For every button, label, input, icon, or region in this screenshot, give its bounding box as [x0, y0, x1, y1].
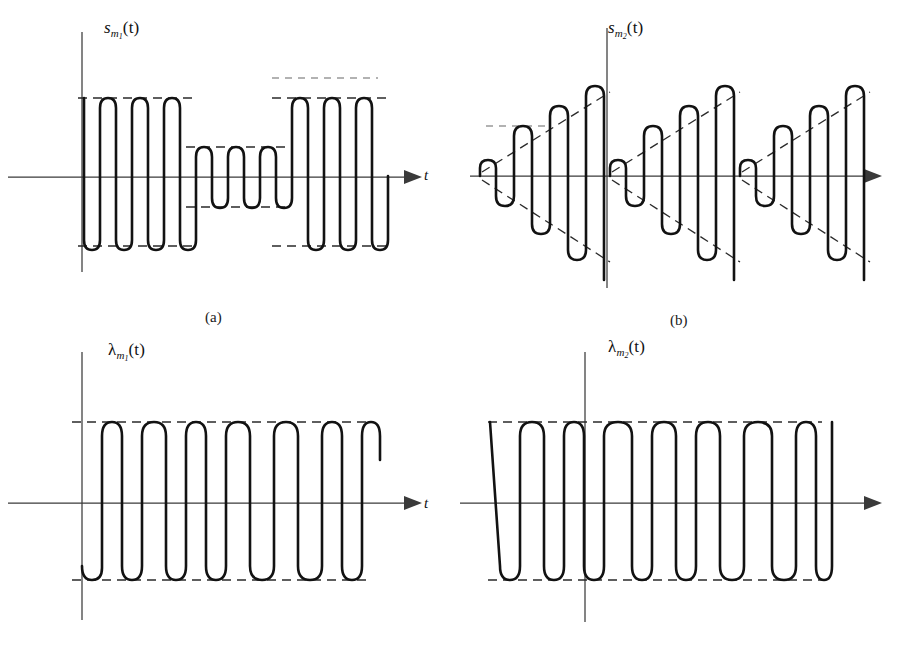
panel-a-waveform	[84, 98, 388, 250]
panel-b-waveform-ramp-2	[610, 86, 734, 280]
panel-b-envelope	[482, 92, 870, 262]
label-sm1-arg: (t)	[123, 18, 140, 37]
panel-b-waveform-ramp-1	[480, 86, 604, 280]
panel-b-chart	[450, 0, 900, 300]
envelope-down-2	[612, 180, 740, 262]
panel-b-waveform-ramp-3	[740, 86, 864, 280]
envelope-down-1	[482, 180, 610, 262]
panel-a-chart	[0, 0, 460, 300]
panel-d-y-axis-label: λm2(t)	[608, 337, 645, 360]
panel-d-chart	[450, 330, 900, 649]
label-sm2-main: s	[608, 18, 615, 37]
label-lm1-arg: (t)	[128, 340, 145, 359]
label-sm1-main: s	[104, 18, 111, 37]
envelope-up-3	[742, 92, 870, 172]
panel-c-chart	[0, 330, 460, 649]
panel-b-y-axis-label: sm2(t)	[608, 18, 643, 41]
label-lm2-arg: (t)	[628, 337, 645, 356]
x-axis-arrowhead-icon	[404, 170, 422, 184]
panel-b-svg	[450, 0, 900, 300]
caption-b: (b)	[670, 312, 688, 329]
label-sm2-arg: (t)	[627, 18, 644, 37]
envelope-up-2	[612, 92, 740, 172]
caption-a: (a)	[205, 309, 222, 326]
x-axis-arrowhead-icon	[864, 496, 882, 510]
panel-d-axes	[460, 352, 882, 622]
panel-c-envelope	[72, 422, 370, 580]
panel-a-svg	[0, 0, 460, 300]
envelope-down-3	[742, 180, 870, 262]
panel-c-y-axis-label: λm1(t)	[108, 340, 145, 363]
panel-a-envelope	[78, 78, 392, 246]
x-axis-arrowhead-icon	[864, 169, 882, 183]
panel-d-svg	[450, 330, 900, 649]
panel-d-waveform	[490, 422, 832, 580]
label-sm1-sub: m	[111, 27, 119, 39]
panel-c-waveform	[82, 422, 380, 580]
panel-a-y-axis-label: sm1(t)	[104, 18, 139, 41]
envelope-up-1	[482, 92, 610, 172]
panel-c-x-axis-label: t	[424, 495, 428, 512]
panel-c-svg	[0, 330, 460, 649]
x-axis-arrowhead-icon	[404, 496, 422, 510]
panel-a-axes	[8, 32, 422, 272]
figure-container: sm1(t) t	[0, 0, 900, 649]
label-sm2-sub: m	[615, 27, 623, 39]
panel-a-x-axis-label: t	[424, 167, 428, 184]
